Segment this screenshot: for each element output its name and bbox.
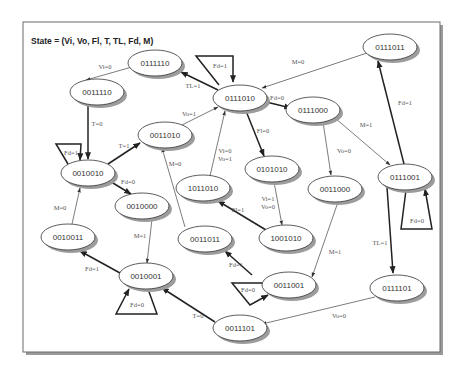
edge-label: Fl=0 xyxy=(257,127,269,134)
state-label: 0111000 xyxy=(298,106,329,115)
state-label: 1001010 xyxy=(270,234,302,243)
edge-label: Vo=1 xyxy=(218,155,232,162)
edge-label: Vi=1 xyxy=(261,195,274,202)
edge-label: M=1 xyxy=(360,121,373,128)
state-label: 0011011 xyxy=(190,235,221,244)
edge-label: T=0 xyxy=(92,120,103,127)
edge-label: T=1 xyxy=(119,142,130,149)
state-label: 1011010 xyxy=(188,184,219,193)
edge-label: Fl=1 xyxy=(232,206,244,213)
state-label: 0111011 xyxy=(375,43,405,52)
edge-label: TL=1 xyxy=(186,82,201,89)
state-diagram: State = (Vi, Vo, Fl, T, TL, Fd, M) Vi=0 … xyxy=(0,0,465,372)
edge-label: Fd=1 xyxy=(398,99,412,106)
state-label: 0010001 xyxy=(130,272,162,281)
edge-label: M=1 xyxy=(329,248,342,255)
state-label: 0010010 xyxy=(72,169,104,178)
state-label: 0111010 xyxy=(225,94,256,103)
diagram-title: State = (Vi, Vo, Fl, T, TL, Fd, M) xyxy=(31,36,153,46)
edge-label: M=0 xyxy=(169,160,182,167)
state-label: 0111110 xyxy=(141,59,170,68)
state-label: 0011101 xyxy=(225,324,256,333)
edge-label: Fd=0 xyxy=(270,94,284,101)
state-label: 0101010 xyxy=(256,165,288,174)
edge-label: Vo=1 xyxy=(182,110,196,117)
state-label: 0010000 xyxy=(126,202,158,211)
state-label: 0111101 xyxy=(382,284,412,293)
edge-label: Fd=0 xyxy=(410,217,424,224)
edge-label: T=0 xyxy=(193,312,204,319)
state-label: 0011010 xyxy=(150,131,181,140)
edge-label: Fd=1 xyxy=(213,62,227,69)
edge-label: Fd=0 xyxy=(130,301,144,308)
edge-label: M=1 xyxy=(134,232,147,239)
state-label: 0010011 xyxy=(53,233,84,242)
state-label: 0011110 xyxy=(82,88,112,97)
edge-label: Vi=0 xyxy=(218,147,231,154)
edge-label: TL=1 xyxy=(373,239,388,246)
edge-label: Fd=1 xyxy=(85,265,99,272)
edge-label: Fd=1 xyxy=(64,149,78,156)
edge-label: Vo=0 xyxy=(337,147,351,154)
edge-label: M=0 xyxy=(292,58,305,65)
state-label: 0111001 xyxy=(390,173,421,182)
state-label: 0011001 xyxy=(274,281,305,290)
edge-label: Fd=0 xyxy=(121,178,135,185)
edge-label: Fd=0 xyxy=(241,286,255,293)
edge-label: M=0 xyxy=(54,204,67,211)
edge-label: Fd=1 xyxy=(229,261,243,268)
edge-label: Vi=0 xyxy=(98,63,111,70)
edge-label: Vo=0 xyxy=(332,312,346,319)
state-label: 0011000 xyxy=(320,185,351,194)
edge-label: Vo=0 xyxy=(261,203,275,210)
